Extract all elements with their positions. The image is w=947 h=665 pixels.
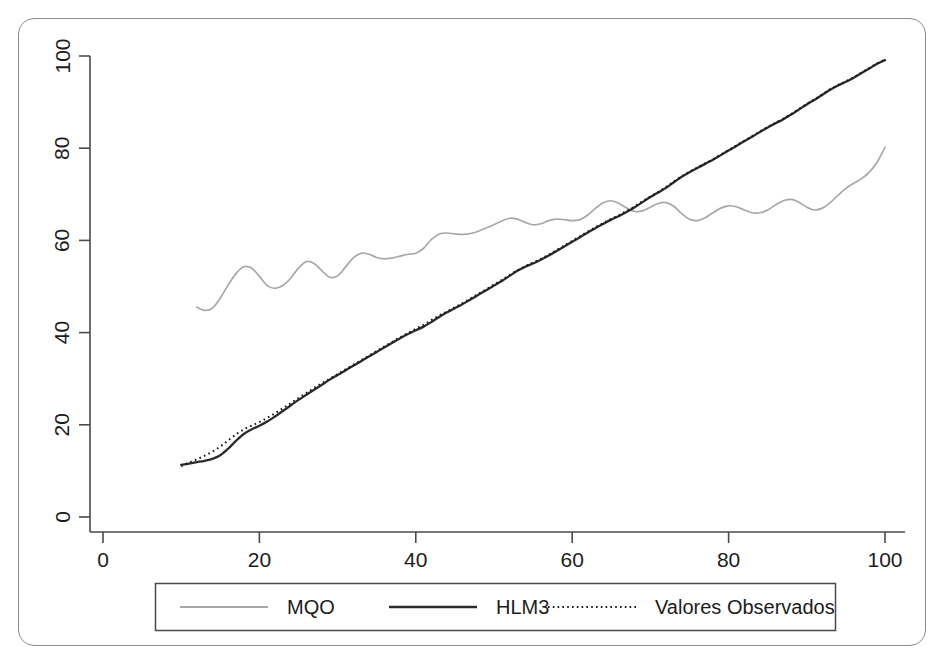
legend-label-valores-observados: Valores Observados [655,596,835,618]
y-axis-tick-labels: 020406080100 [51,38,74,522]
line-chart: 020406080100 020406080100 MQO HLM3 Valor… [0,0,947,665]
x-tick-label: 100 [867,548,902,571]
x-tick-label: 40 [404,548,427,571]
x-axis-ticks [103,532,885,543]
legend: MQO HLM3 Valores Observados [156,584,836,631]
x-axis-tick-labels: 020406080100 [97,548,902,571]
legend-label-mqo: MQO [287,596,335,618]
y-axis: 020406080100 [51,38,91,532]
y-tick-label: 60 [51,229,74,252]
plot-series [181,60,885,467]
y-tick-label: 0 [51,511,74,523]
y-tick-label: 20 [51,413,74,436]
x-tick-label: 80 [717,548,740,571]
y-tick-label: 100 [51,38,74,73]
x-tick-label: 20 [248,548,271,571]
x-axis: 020406080100 [90,532,905,571]
y-axis-ticks [79,56,90,517]
y-tick-label: 80 [51,137,74,160]
x-tick-label: 0 [97,548,109,571]
legend-label-hlm3: HLM3 [496,596,549,618]
x-tick-label: 60 [561,548,584,571]
series-line-mqo [197,147,885,310]
figure-root: 020406080100 020406080100 MQO HLM3 Valor… [0,0,947,665]
y-tick-label: 40 [51,321,74,344]
